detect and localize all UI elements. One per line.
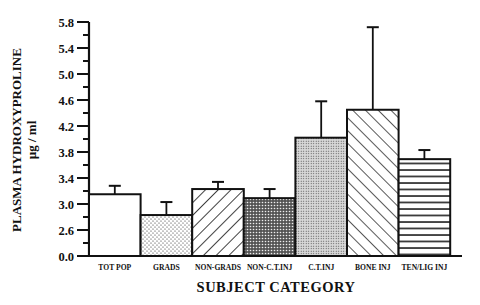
error-bar — [315, 101, 327, 137]
x-tick-label: NON-C.T.INJ — [247, 263, 293, 272]
y-tick-label: 4.6 — [58, 94, 74, 108]
y-tick-label: 0.0 — [58, 250, 74, 264]
y-tick-label: 4.2 — [58, 120, 74, 134]
error-bar — [418, 150, 430, 159]
y-tick-label: 2.6 — [58, 224, 74, 238]
y-tick-label: 5.0 — [58, 68, 74, 82]
x-tick-labels: TOT POPGRADSNON-GRADSNON-C.T.INJC.T.INJB… — [98, 263, 447, 272]
y-tick-label: 3.8 — [58, 146, 74, 160]
bar-bone-inj — [347, 27, 399, 256]
x-tick-label: TEN/LIG INJ — [402, 263, 448, 272]
error-bar — [264, 189, 276, 198]
bars — [89, 27, 450, 256]
error-bar — [160, 202, 172, 215]
bar-c-t-inj — [295, 101, 347, 256]
error-bar — [212, 182, 224, 189]
y-axis-units: µg / ml — [24, 48, 39, 232]
bar-non-grads — [192, 182, 244, 256]
y-tick-label: 5.8 — [58, 16, 74, 30]
x-tick-label: GRADS — [153, 263, 180, 272]
x-tick-label: TOT POP — [98, 263, 131, 272]
error-bar — [367, 27, 379, 110]
bar-chart: 0.02.63.03.43.84.24.65.05.45.8 TOT POPGR… — [0, 0, 480, 305]
bar-ten-lig-inj — [399, 150, 451, 256]
x-tick-label: NON-GRADS — [195, 263, 241, 272]
bar-non-c-t-inj — [244, 189, 296, 256]
y-tick-label: 3.4 — [58, 172, 74, 186]
y-axis-title: PLASMA HYDROXYPROLINE — [9, 48, 24, 232]
x-axis-title: SUBJECT CATEGORY — [0, 279, 480, 296]
error-bar — [109, 186, 121, 194]
bar-tot-pop — [89, 186, 141, 256]
bar-grads — [141, 202, 193, 256]
y-tick-label: 3.0 — [58, 198, 74, 212]
x-tick-label: BONE INJ — [355, 263, 391, 272]
y-tick-label: 5.4 — [58, 42, 74, 56]
x-tick-label: C.T.INJ — [308, 263, 334, 272]
